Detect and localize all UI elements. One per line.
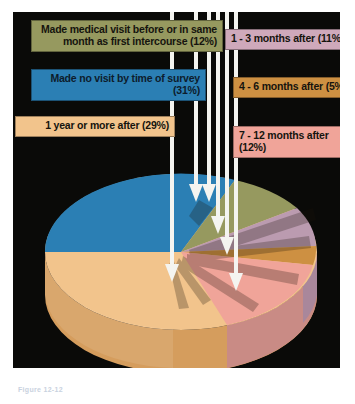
callout-before-or-same-month: Made medical visit before or in same mon…	[31, 20, 223, 52]
figure-caption: Figure 12-12	[18, 386, 63, 393]
callout-no-visit-by-survey: Made no visit by time of survey (31%)	[31, 69, 206, 101]
chart-plate: Made medical visit before or in same mon…	[13, 12, 340, 368]
callout-one-to-three-months: 1 - 3 months after (11%)	[225, 29, 340, 50]
callout-seven-to-twelve-months: 7 - 12 months after (12%)	[233, 126, 340, 158]
pie-chart	[13, 12, 340, 368]
pie-svg	[13, 12, 340, 368]
callout-four-to-six-months: 4 - 6 months after (5%)	[233, 77, 340, 98]
callout-one-year-or-more: 1 year or more after (29%)	[15, 116, 175, 137]
figure-pie-chart: Made medical visit before or in same mon…	[0, 0, 355, 404]
